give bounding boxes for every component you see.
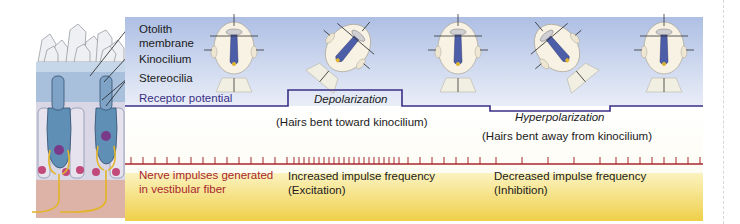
otolith-label: Otolith (139, 22, 172, 36)
otolith-label-2: membrane (139, 36, 194, 50)
depolarization-label: Depolarization (314, 92, 388, 106)
kinocilium-label: Kinocilium (139, 52, 191, 66)
excitation-label-2: (Excitation) (288, 183, 346, 197)
hyperpolarization-label: Hyperpolarization (515, 110, 605, 124)
hyperpolarization-caption: (Hairs bent away from kinocilium) (482, 129, 652, 143)
nerve-impulses-label-2: in vestibular fiber (139, 182, 226, 196)
excitation-label: Increased impulse frequency (288, 169, 435, 183)
receptor-potential-label: Receptor potential (139, 91, 232, 105)
inhibition-label: Decreased impulse frequency (494, 169, 646, 183)
nerve-impulses-label: Nerve impulses generated (139, 168, 273, 182)
depolarization-caption: (Hairs bent toward kinocilium) (276, 115, 427, 129)
inhibition-label-2: (Inhibition) (494, 183, 548, 197)
page-edge-dashes (723, 0, 724, 224)
stereocilia-label: Stereocilia (139, 71, 193, 85)
impulse-ticks (131, 157, 700, 164)
traces (0, 0, 740, 224)
